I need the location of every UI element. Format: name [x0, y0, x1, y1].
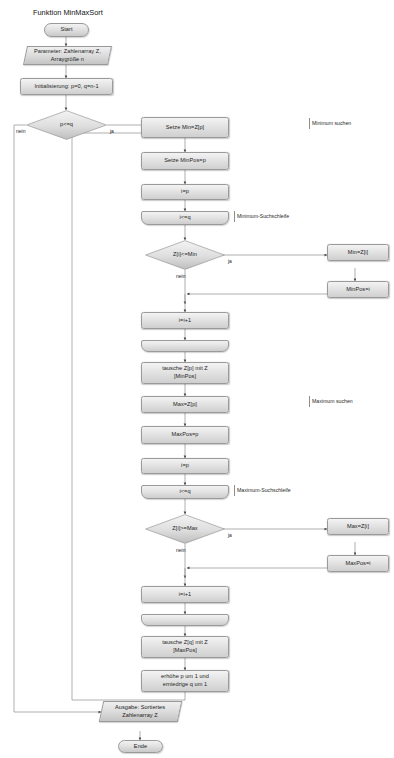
branch-label-max-no: nein — [176, 547, 185, 553]
annotation-max-loop: Maximum-Suchschleife — [237, 487, 291, 493]
node-condition-max-label: Z[i]>=Max — [172, 525, 197, 533]
annotation-min-search: Minimum suchen — [312, 120, 351, 126]
node-set-maxpos: MaxPos=p — [141, 426, 229, 444]
node-min-assign: Min=Z[i] — [327, 244, 389, 261]
node-parameters-label: Parameter: Zahlenarray Z, Arraygröße n — [34, 48, 101, 63]
annotation-rule-min-search — [309, 118, 310, 129]
node-i-increment-max: i=i+1 — [141, 586, 229, 603]
node-initialisation: Initialisierung: p=0, q=n-1 — [20, 78, 113, 95]
branch-label-max-yes: ja — [228, 532, 232, 538]
branch-label-min-yes: ja — [228, 258, 232, 264]
annotation-rule-max-loop — [234, 485, 235, 496]
node-max-loop-header: i<=q — [141, 485, 229, 499]
annotation-rule-max-search — [309, 396, 310, 407]
node-max-assign: Max=Z[i] — [327, 518, 389, 535]
diagram-title: Funktion MinMaxSort — [33, 8, 103, 17]
annotation-rule-min-loop — [234, 211, 235, 222]
node-swap-max: tausche Z[q] mit Z [MaxPos] — [141, 636, 229, 658]
node-output-label: Ausgabe: Sortiertes Zahlenarray Z — [115, 704, 165, 719]
node-i-increment-min: i=i+1 — [141, 312, 229, 329]
node-i-equals-p-min: i=p — [141, 184, 229, 200]
node-max-loop-footer — [141, 614, 229, 626]
node-maxpos-assign: MaxPos=i — [327, 555, 389, 572]
node-output: Ausgabe: Sortiertes Zahlenarray Z — [99, 701, 182, 722]
annotation-max-search: Maximum suchen — [312, 398, 353, 404]
node-condition-min: Z[i]<=Min — [145, 240, 225, 270]
node-outer-condition: p<=q — [26, 110, 107, 140]
node-condition-max: Z[i]>=Max — [145, 514, 225, 544]
node-condition-min-label: Z[i]<=Min — [173, 251, 197, 259]
node-min-loop-header: i<=q — [141, 211, 229, 225]
node-parameters: Parameter: Zahlenarray Z, Arraygröße n — [23, 46, 112, 65]
node-min-loop-footer — [141, 340, 229, 352]
branch-label-outer-no: nein — [16, 128, 25, 134]
node-set-min: Setze Min=Z[p] — [141, 117, 229, 138]
annotation-min-loop: Minimum-Suchschleife — [237, 213, 289, 219]
branch-label-outer-yes: ja — [110, 128, 114, 134]
node-swap-min: tausche Z[p] mit Z [MinPos] — [141, 362, 229, 384]
node-adjust-bounds: erhöhe p um 1 und erniedrige q um 1 — [141, 670, 229, 692]
node-outer-condition-label: p<=q — [60, 121, 73, 129]
node-minpos-assign: MinPos=i — [327, 281, 389, 298]
node-i-equals-p-max: i=p — [141, 458, 229, 474]
branch-label-min-no: nein — [176, 273, 185, 279]
flowchart-canvas: Funktion MinMaxSort Start Parameter: Zah… — [0, 0, 394, 758]
node-start: Start — [44, 23, 89, 37]
node-end: Ende — [118, 740, 163, 753]
node-set-minpos: Setze MinPos=p — [141, 152, 229, 170]
node-set-max: Max=Z[p] — [141, 396, 229, 413]
